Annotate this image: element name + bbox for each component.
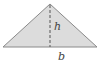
base-label: b — [58, 50, 65, 62]
triangle-diagram: h b — [0, 0, 99, 62]
height-label: h — [54, 20, 61, 33]
